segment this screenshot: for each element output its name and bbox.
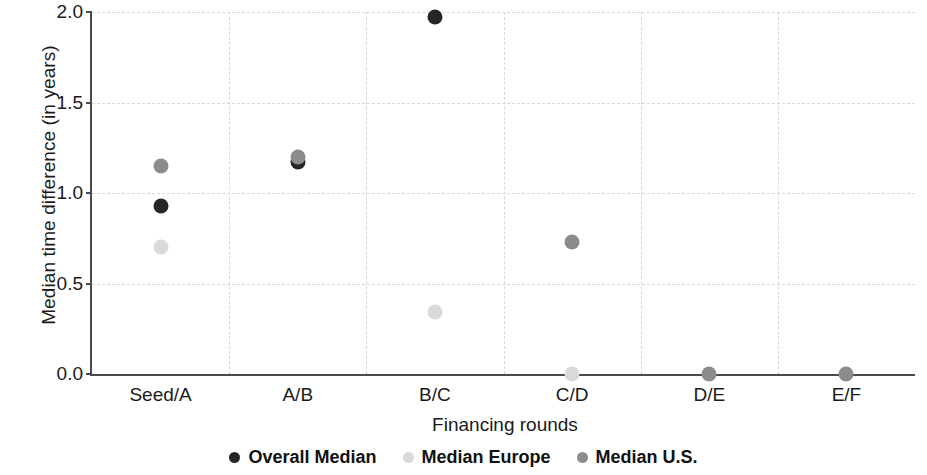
legend-item[interactable]: Median Europe: [403, 447, 551, 468]
x-gridline: [641, 12, 642, 374]
data-point: [839, 367, 854, 382]
x-gridline: [778, 12, 779, 374]
data-point: [153, 240, 168, 255]
data-point: [427, 10, 442, 25]
legend-item[interactable]: Overall Median: [229, 447, 376, 468]
x-axis-tick-label: B/C: [419, 384, 451, 406]
plot-area: 0.00.51.01.52.0Seed/AA/BB/CC/DD/EE/F: [90, 12, 915, 376]
x-axis-title: Financing rounds: [90, 414, 920, 436]
x-axis-tick-label: C/D: [556, 384, 589, 406]
x-axis-tick-label: E/F: [832, 384, 862, 406]
legend-label: Overall Median: [248, 447, 376, 468]
y-axis-tick-label: 0.0: [57, 363, 83, 385]
x-gridline: [366, 12, 367, 374]
data-point: [565, 367, 580, 382]
data-point: [290, 149, 305, 164]
y-axis-tick-label: 1.0: [57, 182, 83, 204]
y-axis-tick-mark: [86, 192, 92, 194]
x-gridline: [504, 12, 505, 374]
y-axis-tick-mark: [86, 283, 92, 285]
y-axis-tick-mark: [86, 373, 92, 375]
legend-item[interactable]: Median U.S.: [577, 447, 698, 468]
legend-label: Median Europe: [422, 447, 551, 468]
chart-legend: Overall MedianMedian EuropeMedian U.S.: [0, 447, 927, 468]
scatter-chart: Median time difference (in years) 0.00.5…: [0, 0, 927, 475]
x-axis-tick-label: A/B: [282, 384, 313, 406]
legend-label: Median U.S.: [596, 447, 698, 468]
y-axis-tick-label: 0.5: [57, 273, 83, 295]
y-axis-tick-mark: [86, 102, 92, 104]
data-point: [153, 198, 168, 213]
x-gridline: [229, 12, 230, 374]
legend-dot-icon: [577, 452, 588, 463]
x-axis-tick-label: Seed/A: [129, 384, 191, 406]
y-axis-tick-label: 1.5: [57, 92, 83, 114]
y-axis-tick-label: 2.0: [57, 1, 83, 23]
legend-dot-icon: [403, 452, 414, 463]
data-point: [153, 158, 168, 173]
data-point: [427, 305, 442, 320]
y-axis-tick-mark: [86, 11, 92, 13]
data-point: [702, 367, 717, 382]
legend-dot-icon: [229, 452, 240, 463]
x-axis-tick-label: D/E: [693, 384, 725, 406]
data-point: [565, 234, 580, 249]
